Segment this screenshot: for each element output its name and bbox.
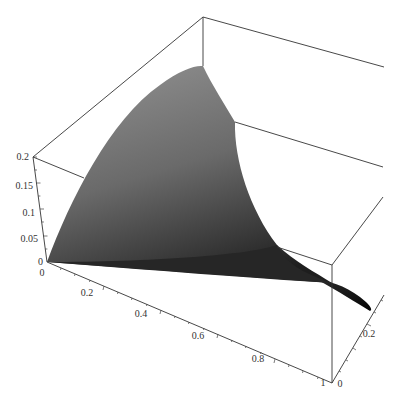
box-edge-right-top — [332, 197, 383, 265]
surface-tail — [318, 280, 371, 311]
y-tick-label: 0 — [338, 378, 343, 389]
surface-main — [47, 66, 332, 283]
x-axis-ticks — [61, 268, 319, 379]
box-edge-top-front-left — [33, 157, 84, 178]
surface — [47, 66, 371, 311]
x-tick-label: 0.4 — [135, 308, 148, 319]
x-tick-label: 1 — [321, 377, 326, 388]
surface-plot: 0.2 0.15 0.1 0.05 0 0 0.2 0.4 0.6 0.8 1 — [0, 0, 401, 399]
z-tick-label: 0.05 — [21, 233, 39, 244]
y-tick-label: 0.2 — [363, 328, 376, 339]
x-tick-label: 0.6 — [192, 330, 205, 341]
x-tick-label: 0 — [40, 267, 45, 278]
z-axis-line — [33, 157, 47, 262]
y-axis-ticks — [339, 300, 383, 372]
y-axis-line — [332, 295, 384, 383]
box-edge-top-front-right — [235, 122, 383, 167]
z-axis-labels: 0.2 0.15 0.1 0.05 0 — [16, 151, 44, 267]
z-tick-label: 0.15 — [16, 180, 34, 191]
box-edge-top-back — [203, 17, 384, 67]
z-tick-label: 0 — [38, 256, 43, 267]
x-axis-labels: 0 0.2 0.4 0.6 0.8 1 — [40, 267, 326, 388]
x-tick-label: 0.8 — [252, 353, 265, 364]
z-tick-label: 0.1 — [23, 207, 36, 218]
y-axis-labels: 0 0.2 — [338, 328, 376, 389]
x-tick-label: 0.2 — [81, 287, 94, 298]
z-tick-label: 0.2 — [17, 151, 30, 162]
